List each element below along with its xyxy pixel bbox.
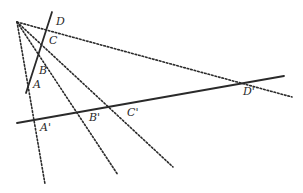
label-a-prime: A' (40, 122, 51, 133)
label-d: D (56, 16, 65, 27)
diagram-canvas (0, 0, 303, 193)
label-b-prime: B' (89, 112, 100, 123)
label-a: A (33, 79, 41, 90)
ray-b (17, 22, 118, 175)
label-d-prime: D' (243, 86, 255, 97)
label-b: B (39, 65, 47, 76)
label-c: C (49, 35, 57, 46)
projective-diagram: D C B A A' B' C' D' (0, 0, 303, 193)
label-c-prime: C' (127, 107, 138, 118)
